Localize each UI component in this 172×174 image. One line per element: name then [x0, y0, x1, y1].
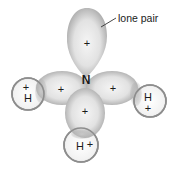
left-overlap — [35, 79, 47, 103]
lone-pair-label: lone pair — [118, 12, 159, 24]
lone-pair-lobe-charge: + — [84, 37, 90, 49]
right-lobe-charge: + — [110, 82, 116, 94]
left-h-label: H — [24, 92, 32, 104]
bottom-h-label: H — [76, 140, 84, 152]
bottom-h-charge: + — [87, 138, 93, 150]
left-lobe-charge: + — [58, 83, 64, 95]
bottom-lobe-charge: + — [82, 105, 88, 117]
right-h-charge: + — [145, 102, 151, 114]
nitrogen-label: N — [82, 73, 91, 87]
ammonia-orbital-diagram: lone pair N + + + + + H H + H + — [0, 0, 172, 174]
